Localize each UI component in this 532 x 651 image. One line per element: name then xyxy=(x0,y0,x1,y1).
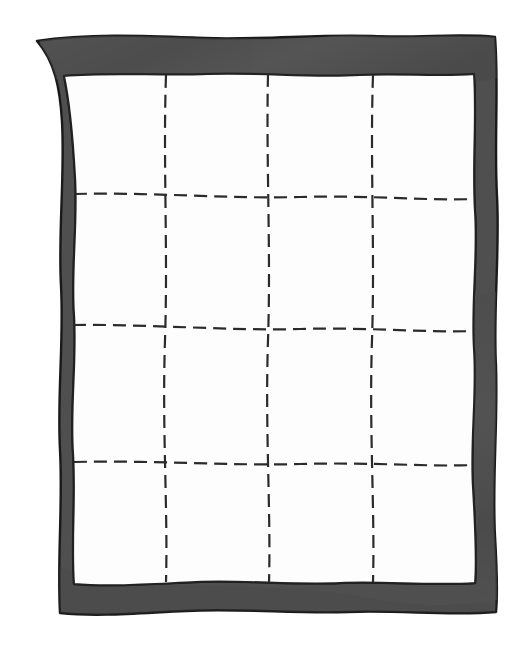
illustration-canvas: Hand-drawn quilt with dashed stitching g… xyxy=(0,0,532,651)
quilt-panel xyxy=(64,74,476,586)
quilt-illustration xyxy=(0,0,532,651)
quilt-field xyxy=(64,74,476,586)
